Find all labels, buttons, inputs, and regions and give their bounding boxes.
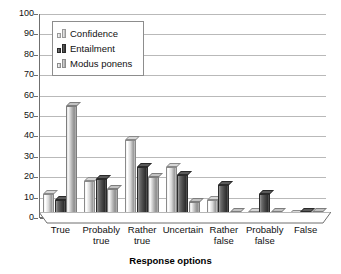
bar-group: [285, 14, 326, 218]
y-tick-label: 0: [4, 213, 34, 222]
bar[interactable]: [259, 194, 270, 218]
legend-swatch-icon: [57, 29, 66, 38]
x-axis: TrueProbably trueRather trueUncertainRat…: [40, 224, 326, 254]
bar[interactable]: [166, 167, 177, 218]
bar-top-face: [66, 102, 81, 106]
bar[interactable]: [207, 200, 218, 218]
bar-front-face: [259, 194, 270, 218]
x-tick-label: Rather true: [122, 224, 163, 246]
bar-front-face: [66, 106, 77, 218]
legend-item: Modus ponens: [57, 56, 139, 71]
bar-front-face: [84, 181, 95, 218]
bar-group: [163, 14, 204, 218]
bar-top-face: [96, 175, 111, 179]
x-tick-label: Uncertain: [163, 224, 204, 235]
bar-front-face: [148, 177, 159, 218]
bar[interactable]: [43, 194, 54, 218]
bar-chart: 0102030405060708090100 TrueProbably true…: [0, 0, 341, 274]
bar[interactable]: [218, 185, 229, 218]
y-tick-mark: [34, 198, 38, 199]
bar[interactable]: [300, 212, 311, 218]
bar-front-face: [248, 212, 259, 218]
bar[interactable]: [177, 175, 188, 218]
y-tick-mark: [34, 96, 38, 97]
y-tick-label: 90: [4, 29, 34, 38]
bar[interactable]: [107, 189, 118, 218]
bar[interactable]: [66, 106, 77, 218]
bar-top-face: [312, 208, 327, 212]
y-tick-mark: [34, 34, 38, 35]
y-tick-mark: [34, 14, 38, 15]
y-tick-mark: [34, 55, 38, 56]
bar-front-face: [289, 214, 300, 218]
y-tick-label: 80: [4, 50, 34, 59]
bar[interactable]: [148, 177, 159, 218]
bar[interactable]: [230, 212, 241, 218]
y-tick-mark: [34, 116, 38, 117]
bar-top-face: [218, 181, 233, 185]
y-tick-label: 70: [4, 70, 34, 79]
bar-front-face: [207, 200, 218, 218]
y-tick-mark: [34, 177, 38, 178]
bar-front-face: [271, 212, 282, 218]
x-tick-label: Probably true: [81, 224, 122, 246]
chart-legend: ConfidenceEntailmentModus ponens: [52, 21, 144, 76]
bar-front-face: [43, 194, 54, 218]
bar[interactable]: [189, 202, 200, 218]
bar-front-face: [125, 140, 136, 218]
y-tick-label: 30: [4, 152, 34, 161]
y-tick-label: 100: [4, 9, 34, 18]
legend-item: Confidence: [57, 26, 139, 41]
bar[interactable]: [125, 140, 136, 218]
bar[interactable]: [248, 212, 259, 218]
bar[interactable]: [137, 167, 148, 218]
y-tick-mark: [34, 218, 38, 219]
x-tick-label: Rather false: [203, 224, 244, 246]
x-tick-label: False: [285, 224, 326, 235]
bar-front-face: [96, 179, 107, 218]
y-tick-label: 40: [4, 131, 34, 140]
bar-front-face: [189, 202, 200, 218]
y-tick-mark: [34, 157, 38, 158]
bar-top-face: [259, 190, 274, 194]
bar[interactable]: [271, 212, 282, 218]
bar[interactable]: [55, 200, 66, 218]
y-tick-label: 10: [4, 193, 34, 202]
y-tick-mark: [34, 136, 38, 137]
legend-item: Entailment: [57, 41, 139, 56]
y-axis: 0102030405060708090100: [0, 14, 34, 218]
x-tick-label: True: [40, 224, 81, 235]
bar-top-face: [43, 190, 58, 194]
legend-swatch-icon: [57, 59, 66, 68]
bar[interactable]: [96, 179, 107, 218]
legend-swatch-icon: [57, 44, 66, 53]
bar-front-face: [177, 175, 188, 218]
x-axis-title: Response options: [0, 255, 341, 266]
bar-top-face: [107, 185, 122, 189]
bar[interactable]: [84, 181, 95, 218]
y-tick-label: 60: [4, 91, 34, 100]
legend-label: Modus ponens: [70, 58, 132, 69]
bar[interactable]: [289, 214, 300, 218]
bar-front-face: [312, 212, 323, 218]
bar-group: [244, 14, 285, 218]
legend-label: Confidence: [70, 28, 118, 39]
bar-top-face: [166, 163, 181, 167]
bar-top-face: [189, 198, 204, 202]
bar-top-face: [271, 208, 286, 212]
y-tick-mark: [34, 75, 38, 76]
y-tick-label: 20: [4, 172, 34, 181]
bar-front-face: [107, 189, 118, 218]
bar[interactable]: [312, 212, 323, 218]
bar-top-face: [148, 173, 163, 177]
bar-top-face: [137, 163, 152, 167]
bar-top-face: [230, 208, 245, 212]
legend-label: Entailment: [70, 43, 115, 54]
bar-front-face: [55, 200, 66, 218]
y-tick-label: 50: [4, 111, 34, 120]
bar-front-face: [300, 212, 311, 218]
bar-front-face: [137, 167, 148, 218]
bar-top-face: [177, 171, 192, 175]
bar-group: [203, 14, 244, 218]
bar-front-face: [166, 167, 177, 218]
